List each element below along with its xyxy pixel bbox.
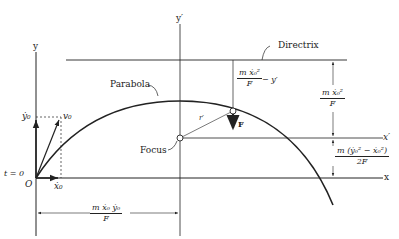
x-axis-label: x xyxy=(384,173,389,182)
dim-vertex-height: m (ẏ₀² − ẋ₀²) 2F xyxy=(335,147,389,166)
r-prime-line xyxy=(180,111,233,138)
parabola-label: Parabola xyxy=(110,80,150,89)
y-axis-label: y xyxy=(33,42,38,51)
directrix-label: Directrix xyxy=(278,41,319,50)
focus-label: Focus xyxy=(140,146,167,155)
v0-label: v₀ xyxy=(63,112,72,121)
xdot0-label: ẋ₀ xyxy=(54,182,63,191)
focus-point xyxy=(177,135,183,141)
ydot0-label: ẏ₀ xyxy=(22,112,31,121)
dim-directrix-height: m ẋ₀² F xyxy=(320,89,345,108)
x-prime-axis-label: x′ xyxy=(383,133,390,142)
force-label: F xyxy=(238,120,244,128)
r-prime-label: r′ xyxy=(199,115,204,122)
origin-label: O xyxy=(25,180,32,189)
dim-distance-suffix: − y′ xyxy=(262,76,278,84)
parabola-path xyxy=(36,101,333,205)
y-prime-axis-label: y′ xyxy=(176,14,183,23)
t-zero-label: t = 0 xyxy=(4,170,24,178)
dim-horizontal-offset: m ẋ₀ ẏ₀ F xyxy=(90,204,122,223)
dim-distance-to-directrix: m ẋ₀² F xyxy=(237,69,262,88)
v0-arrow xyxy=(36,120,59,178)
parabola-curve xyxy=(36,74,180,178)
particle-point xyxy=(230,108,236,114)
